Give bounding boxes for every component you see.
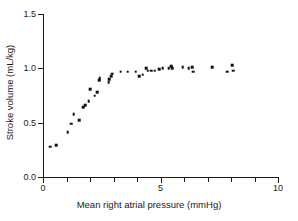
data-point [150, 69, 153, 72]
x-tick [90, 178, 91, 182]
data-point [72, 113, 75, 116]
data-point [49, 145, 52, 148]
data-point [93, 94, 96, 97]
data-point [191, 66, 194, 69]
y-tick-label: 1.5 [23, 9, 36, 20]
data-point [55, 144, 58, 147]
data-point [89, 88, 92, 91]
data-point [192, 70, 195, 73]
data-point [108, 81, 111, 84]
x-tick [137, 178, 138, 182]
y-tick-label: 0.5 [23, 117, 36, 128]
data-point [232, 69, 235, 72]
data-point [135, 70, 138, 73]
data-point [138, 75, 141, 78]
data-point [66, 131, 69, 134]
scatter-plot-figure: 0510 0.00.51.01.5 Mean right atrial pres… [0, 0, 298, 221]
data-point [187, 67, 190, 70]
x-tick [67, 178, 68, 182]
data-point [226, 70, 229, 73]
data-point [182, 66, 185, 69]
data-point [96, 91, 99, 94]
y-axis-line [43, 14, 44, 177]
data-point [108, 78, 111, 81]
x-tick [231, 178, 232, 182]
y-tick-label: 0.0 [23, 172, 36, 183]
data-point [142, 74, 145, 77]
data-point [171, 67, 174, 70]
data-point [126, 70, 129, 73]
x-tick-label: 0 [40, 183, 45, 194]
x-tick [255, 178, 256, 182]
x-tick [208, 178, 209, 182]
x-tick-label: 5 [158, 183, 163, 194]
data-point [78, 119, 81, 122]
data-point [70, 122, 73, 125]
data-point [111, 72, 114, 75]
data-point [88, 100, 91, 103]
data-point [119, 70, 122, 73]
data-point [158, 68, 161, 71]
x-tick-label: 10 [273, 183, 283, 194]
plot-area: 0510 0.00.51.01.5 [43, 14, 278, 177]
data-point [231, 64, 234, 67]
data-point [84, 104, 87, 107]
data-point [162, 67, 165, 70]
y-tick [38, 14, 43, 15]
data-point [146, 69, 149, 72]
y-tick [38, 68, 43, 69]
y-tick [38, 177, 43, 178]
y-axis-title: Stroke volume (mL/kg) [4, 8, 15, 178]
x-tick [184, 178, 185, 182]
y-tick-label: 1.0 [23, 63, 36, 74]
data-point [211, 66, 214, 69]
data-point [153, 69, 156, 72]
x-tick [114, 178, 115, 182]
y-tick [38, 123, 43, 124]
data-point [99, 77, 102, 80]
x-axis-title: Mean right atrial pressure (mmHg) [0, 199, 298, 210]
